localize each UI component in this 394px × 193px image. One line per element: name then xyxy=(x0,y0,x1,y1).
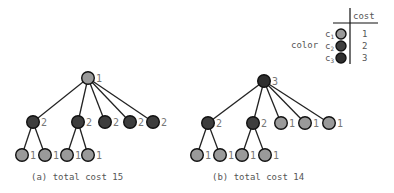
legend-cost-value: 3 xyxy=(362,53,367,63)
node-cost-label: 2 xyxy=(113,117,119,128)
node-cost-label: 1 xyxy=(96,150,102,161)
node-circle-c1 xyxy=(275,117,288,130)
legend-header: cost xyxy=(353,11,375,21)
node-cost-label: 1 xyxy=(228,150,234,161)
tree-b: 3221111111(b) total cost 14 xyxy=(191,75,343,182)
tree-root-node: 1 xyxy=(82,72,102,85)
tree-coloring-diagram: cost color c11c22c33 1222221111(a) total… xyxy=(0,0,394,193)
tree-edge xyxy=(88,78,130,122)
tree-leaf-node: 1 xyxy=(214,149,234,162)
tree-edge xyxy=(264,81,329,123)
tree-leaf-node: 1 xyxy=(191,149,211,162)
tree-child-node: 2 xyxy=(27,116,47,129)
node-cost-label: 2 xyxy=(41,117,47,128)
tree-edge xyxy=(88,78,105,122)
legend-row-label: color xyxy=(291,40,319,50)
tree-child-node: 2 xyxy=(124,116,144,129)
tree-child-node: 2 xyxy=(247,117,267,130)
tree-leaf-node: 1 xyxy=(16,149,36,162)
legend-row-c3: c33 xyxy=(325,53,367,64)
tree-a: 1222221111(a) total cost 15 xyxy=(16,72,167,182)
node-cost-label: 3 xyxy=(272,76,278,87)
tree-leaf-node: 1 xyxy=(236,149,256,162)
legend-color-name: c1 xyxy=(325,29,334,40)
node-cost-label: 1 xyxy=(96,73,102,84)
legend-swatch-c1 xyxy=(336,29,346,39)
node-circle-c1 xyxy=(61,149,74,162)
legend-color-name: c3 xyxy=(325,53,334,64)
tree-leaf-node: 1 xyxy=(39,149,59,162)
node-cost-label: 2 xyxy=(216,118,222,129)
node-circle-c1 xyxy=(39,149,52,162)
node-cost-label: 2 xyxy=(161,117,167,128)
tree-caption: (a) total cost 15 xyxy=(31,172,123,182)
node-circle-c1 xyxy=(259,149,272,162)
tree-leaf-node: 1 xyxy=(82,149,102,162)
legend-swatch-c2 xyxy=(336,41,346,51)
tree-leaf-node: 1 xyxy=(259,149,279,162)
legend-cost-value: 2 xyxy=(362,41,367,51)
node-circle-c2 xyxy=(247,117,260,130)
node-circle-c2 xyxy=(147,116,160,129)
legend-cost-value: 1 xyxy=(362,29,367,39)
node-circle-c1 xyxy=(236,149,249,162)
tree-edge xyxy=(88,78,153,122)
legend-color-name: c2 xyxy=(325,41,334,52)
legend-color-subscript: 3 xyxy=(330,57,334,64)
node-cost-label: 1 xyxy=(337,118,343,129)
node-circle-c1 xyxy=(82,149,95,162)
legend-swatch-c3 xyxy=(336,53,346,63)
node-circle-c2 xyxy=(27,116,40,129)
legend-color-subscript: 1 xyxy=(330,33,334,40)
node-cost-label: 1 xyxy=(313,118,319,129)
legend-row-c2: c22 xyxy=(325,41,367,52)
node-cost-label: 2 xyxy=(86,117,92,128)
cost-legend: cost color c11c22c33 xyxy=(291,8,378,64)
tree-caption: (b) total cost 14 xyxy=(212,172,304,182)
node-cost-label: 1 xyxy=(30,150,36,161)
node-circle-c1 xyxy=(191,149,204,162)
node-circle-c2 xyxy=(202,117,215,130)
node-cost-label: 1 xyxy=(289,118,295,129)
tree-child-node: 1 xyxy=(323,117,343,130)
tree-edge xyxy=(264,81,305,123)
node-cost-label: 1 xyxy=(205,150,211,161)
node-cost-label: 2 xyxy=(261,118,267,129)
tree-child-node: 1 xyxy=(275,117,295,130)
node-circle-c1 xyxy=(16,149,29,162)
node-circle-c2 xyxy=(72,116,85,129)
node-circle-c1 xyxy=(82,72,95,85)
node-circle-c3 xyxy=(258,75,271,88)
legend-row-c1: c11 xyxy=(325,29,367,40)
tree-child-node: 2 xyxy=(72,116,92,129)
node-cost-label: 2 xyxy=(138,117,144,128)
tree-child-node: 2 xyxy=(99,116,119,129)
node-cost-label: 1 xyxy=(273,150,279,161)
node-cost-label: 1 xyxy=(75,150,81,161)
tree-child-node: 2 xyxy=(202,117,222,130)
node-circle-c1 xyxy=(323,117,336,130)
tree-leaf-node: 1 xyxy=(61,149,81,162)
node-circle-c2 xyxy=(124,116,137,129)
node-circle-c1 xyxy=(299,117,312,130)
node-cost-label: 1 xyxy=(250,150,256,161)
tree-root-node: 3 xyxy=(258,75,278,88)
node-cost-label: 1 xyxy=(53,150,59,161)
node-circle-c1 xyxy=(214,149,227,162)
tree-child-node: 2 xyxy=(147,116,167,129)
tree-child-node: 1 xyxy=(299,117,319,130)
legend-color-subscript: 2 xyxy=(330,45,334,52)
node-circle-c2 xyxy=(99,116,112,129)
